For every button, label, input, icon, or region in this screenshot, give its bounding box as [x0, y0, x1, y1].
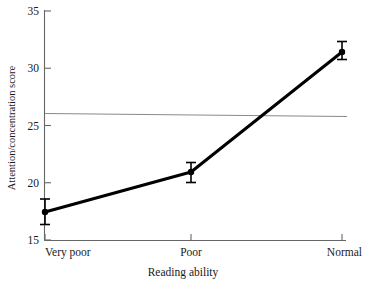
chart-figure: 35 30 25 20 15 Very poor Poor Normal Rea…: [0, 0, 366, 283]
data-point-very-poor: [42, 209, 48, 215]
y-tick-label-35: 35: [28, 5, 40, 17]
x-tick-label-normal: Normal: [327, 246, 362, 258]
attention-vs-reading-ability-line-chart: 35 30 25 20 15 Very poor Poor Normal Rea…: [0, 0, 366, 283]
y-tick-label-25: 25: [28, 120, 40, 132]
x-tick-label-poor: Poor: [180, 246, 202, 258]
data-point-poor: [188, 169, 194, 175]
y-tick-label-30: 30: [28, 62, 40, 74]
y-tick-label-15: 15: [28, 234, 40, 246]
data-point-normal: [339, 49, 345, 55]
x-axis-title: Reading ability: [148, 266, 219, 279]
x-tick-label-very-poor: Very poor: [45, 246, 91, 259]
y-tick-label-20: 20: [28, 177, 40, 189]
y-axis-title: Attention/concentration score: [6, 65, 17, 190]
